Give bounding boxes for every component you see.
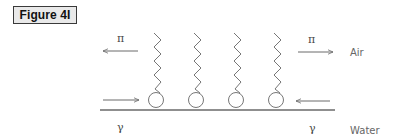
gamma-symbol-left: γ [117, 121, 124, 134]
water-label: Water [350, 125, 380, 136]
surfactant-molecule-2 [189, 33, 204, 108]
pi-symbol-left: π [117, 32, 124, 45]
monolayer-diagram: π π γ γ Air Water [0, 0, 395, 140]
gamma-symbol-right: γ [309, 122, 316, 135]
surfactant-molecule-1 [149, 33, 164, 108]
surfactant-molecule-4 [269, 33, 284, 108]
pi-symbol-right: π [308, 33, 315, 46]
air-label: Air [350, 47, 365, 58]
surfactant-molecule-3 [229, 33, 244, 108]
